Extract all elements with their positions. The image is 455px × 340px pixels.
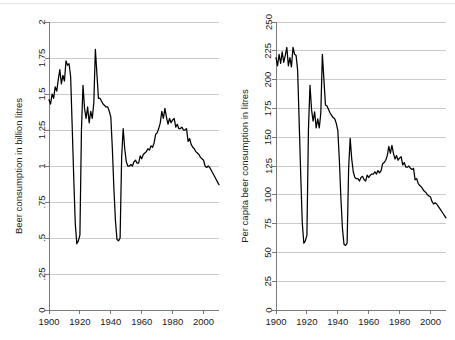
y-tick-label-0: 0 — [263, 307, 274, 312]
y-tick-label-3: 75 — [263, 218, 274, 229]
x-tick-label-5: 2000 — [193, 316, 214, 327]
chart-panel-beer-total: 0.25.5.7511.251.51.752190019201940196019… — [0, 0, 228, 340]
y-tick-label-5: 125 — [263, 158, 274, 174]
chart-panel-beer-per-capita: 0255075100125150175200225250190019201940… — [228, 0, 455, 340]
y-tick-label-5: 1.25 — [36, 121, 47, 140]
y-tick-label-9: 225 — [263, 43, 274, 59]
x-tick-label-4: 1980 — [162, 316, 183, 327]
x-tick-label-3: 1960 — [358, 316, 379, 327]
y-tick-label-3: .75 — [36, 195, 47, 208]
gridlines-group — [276, 22, 446, 281]
y-tick-label-10: 250 — [263, 14, 274, 30]
x-tick-label-2: 1940 — [327, 316, 348, 327]
y-tick-label-1: 25 — [263, 276, 274, 287]
y-tick-label-4: 1 — [36, 163, 47, 168]
y-tick-label-0: 0 — [36, 307, 47, 312]
data-series-line — [49, 49, 219, 243]
y-tick-label-8: 2 — [36, 19, 47, 24]
x-tick-label-5: 2000 — [420, 316, 441, 327]
y-tick-label-1: .25 — [36, 267, 47, 280]
chart-svg-beer-total: 0.25.5.7511.251.51.752190019201940196019… — [0, 0, 228, 340]
y-tick-label-6: 150 — [263, 129, 274, 145]
figure-container: 0.25.5.7511.251.51.752190019201940196019… — [0, 0, 455, 340]
x-tick-label-1: 1920 — [296, 316, 317, 327]
x-tick-label-1: 1920 — [69, 316, 90, 327]
y-tick-label-2: 50 — [263, 247, 274, 258]
y-tick-label-4: 100 — [263, 187, 274, 203]
y-tick-label-6: 1.5 — [36, 87, 47, 100]
data-series-line — [276, 47, 446, 245]
y-tick-label-8: 200 — [263, 72, 274, 88]
axes-group: 0.25.5.7511.251.51.752190019201940196019… — [36, 19, 220, 327]
x-tick-label-0: 1900 — [265, 316, 286, 327]
chart-svg-beer-per-capita: 0255075100125150175200225250190019201940… — [228, 0, 455, 340]
y-axis-title: Per capita beer consumption in litres — [239, 89, 250, 243]
y-tick-label-2: .5 — [36, 234, 47, 242]
x-tick-label-3: 1960 — [131, 316, 152, 327]
x-tick-label-2: 1940 — [100, 316, 121, 327]
y-axis-title: Beer consumption in billion litres — [13, 98, 24, 234]
x-tick-label-4: 1980 — [389, 316, 410, 327]
y-tick-label-7: 1.75 — [36, 49, 47, 68]
y-tick-label-7: 175 — [263, 100, 274, 116]
x-tick-label-0: 1900 — [38, 316, 59, 327]
